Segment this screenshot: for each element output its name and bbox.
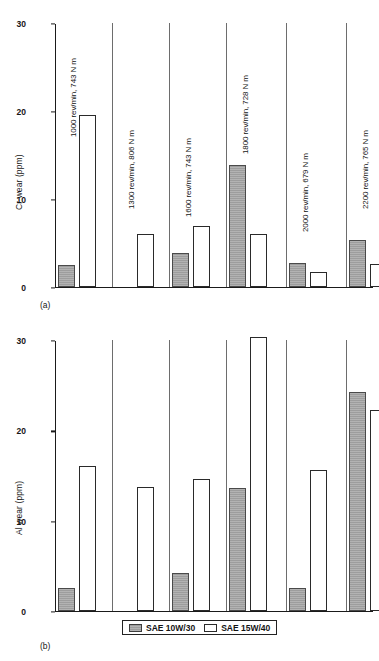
panel-caption-b: (b) bbox=[40, 641, 50, 651]
y-axis-ticks-b: 0102030 bbox=[0, 317, 55, 612]
y-tick-label: 10 bbox=[4, 517, 26, 527]
y-tick-label: 0 bbox=[4, 283, 26, 293]
bar-category-label: 1600 rev/min, 743 N m bbox=[184, 138, 193, 217]
bar-sae-10w30 bbox=[172, 573, 189, 611]
group-separator bbox=[169, 340, 170, 611]
y-axis-ticks-a: 0102030 bbox=[0, 0, 55, 288]
y-tick-mark bbox=[51, 611, 55, 612]
figure-root: Cr wear (ppm) 0102030 1000 rev/min, 743 … bbox=[0, 0, 379, 661]
bar-sae-15w40 bbox=[310, 470, 327, 611]
bar-sae-15w40 bbox=[310, 272, 327, 287]
y-tick-mark bbox=[51, 431, 55, 432]
y-tick-label: 30 bbox=[4, 336, 26, 346]
y-tick-label: 10 bbox=[4, 195, 26, 205]
group-separator bbox=[226, 340, 227, 611]
plot-area-b bbox=[55, 341, 373, 612]
chart-legend: SAE 10W/30SAE 15W/40 bbox=[122, 620, 277, 635]
y-tick-mark bbox=[51, 521, 55, 522]
bar-category-label: 1300 rev/min, 806 N m bbox=[127, 130, 136, 209]
legend-item: SAE 15W/40 bbox=[204, 623, 270, 633]
legend-item: SAE 10W/30 bbox=[129, 623, 195, 633]
group-separator bbox=[286, 340, 287, 611]
bar-sae-15w40 bbox=[250, 337, 267, 611]
bar-sae-15w40 bbox=[250, 234, 267, 287]
group-separator bbox=[169, 23, 170, 287]
bar-sae-10w30 bbox=[229, 165, 246, 287]
legend-swatch-icon bbox=[129, 624, 142, 632]
y-tick-mark bbox=[51, 23, 55, 24]
panel-caption-a: (a) bbox=[40, 300, 50, 310]
bar-sae-10w30 bbox=[289, 588, 306, 611]
y-tick-mark bbox=[51, 111, 55, 112]
legend-label: SAE 10W/30 bbox=[146, 623, 195, 633]
plot-area-a: 1000 rev/min, 743 N m1300 rev/min, 806 N… bbox=[55, 24, 373, 288]
y-tick-label: 20 bbox=[4, 107, 26, 117]
y-tick-mark bbox=[51, 199, 55, 200]
legend-swatch-icon bbox=[204, 624, 217, 632]
group-separator bbox=[112, 340, 113, 611]
bar-sae-10w30 bbox=[349, 240, 366, 287]
y-tick-mark bbox=[51, 287, 55, 288]
bar-sae-15w40 bbox=[79, 466, 96, 611]
bar-category-label: 1800 rev/min, 728 N m bbox=[241, 75, 250, 154]
bar-category-label: 2000 rev/min, 679 N m bbox=[301, 153, 310, 232]
bar-sae-15w40 bbox=[79, 115, 96, 287]
y-tick-label: 0 bbox=[4, 607, 26, 617]
bar-sae-15w40 bbox=[137, 487, 154, 611]
chart-panel-a: Cr wear (ppm) 0102030 1000 rev/min, 743 … bbox=[0, 0, 379, 330]
chart-panel-b: Al wear (ppm) 0102030 (b) bbox=[0, 317, 379, 661]
y-tick-mark bbox=[51, 340, 55, 341]
bar-sae-15w40 bbox=[137, 234, 154, 287]
bar-sae-10w30 bbox=[58, 588, 75, 611]
bar-sae-10w30 bbox=[289, 263, 306, 287]
y-tick-label: 30 bbox=[4, 19, 26, 29]
bar-sae-10w30 bbox=[58, 265, 75, 287]
bar-sae-10w30 bbox=[349, 392, 366, 612]
bar-sae-15w40 bbox=[193, 479, 210, 611]
bar-sae-10w30 bbox=[172, 253, 189, 287]
y-tick-label: 20 bbox=[4, 426, 26, 436]
bar-sae-15w40 bbox=[193, 226, 210, 287]
bar-sae-15w40 bbox=[370, 410, 379, 611]
group-separator bbox=[112, 23, 113, 287]
group-separator bbox=[346, 340, 347, 611]
bar-sae-10w30 bbox=[229, 488, 246, 611]
bar-category-label: 1000 rev/min, 743 N m bbox=[69, 58, 78, 137]
legend-label: SAE 15W/40 bbox=[221, 623, 270, 633]
bar-sae-15w40 bbox=[370, 264, 379, 287]
bar-category-label: 2200 rev/min, 765 N m bbox=[361, 130, 370, 209]
group-separator bbox=[286, 23, 287, 287]
group-separator bbox=[226, 23, 227, 287]
group-separator bbox=[346, 23, 347, 287]
